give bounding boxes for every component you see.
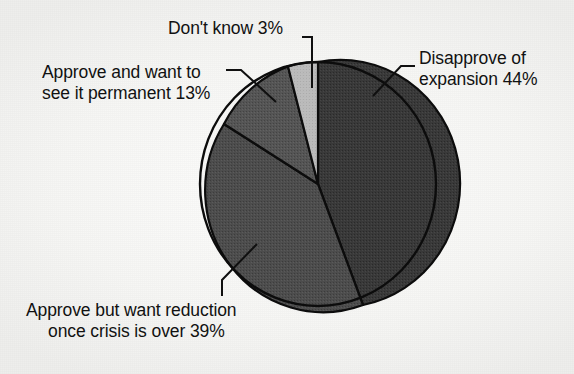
pie-label-disapprove-line2: expansion 44%: [419, 69, 537, 90]
pie-label-permanent-line1: Approve and want to: [42, 62, 210, 83]
pie-label-dont-know: Don't know 3%: [168, 18, 283, 39]
pie-label-reduction: Approve but want reduction once crisis i…: [26, 300, 236, 342]
pie-label-reduction-line2: once crisis is over 39%: [48, 321, 236, 342]
pie-label-disapprove: Disapprove of expansion 44%: [419, 48, 537, 90]
pie-label-reduction-line1: Approve but want reduction: [26, 300, 236, 321]
pie-label-permanent-line2: see it permanent 13%: [42, 83, 210, 104]
chart-figure: Don't know 3% Approve and want to see it…: [0, 0, 574, 374]
pie-label-dont-know-line1: Don't know 3%: [168, 18, 283, 39]
pie-label-permanent: Approve and want to see it permanent 13%: [42, 62, 210, 104]
pie-label-disapprove-line1: Disapprove of: [419, 48, 537, 69]
